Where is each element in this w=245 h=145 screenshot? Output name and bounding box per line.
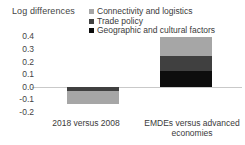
bar-segment[interactable] [160,56,212,71]
bar-group[interactable] [67,30,119,112]
y-axis-title: Log differences [12,6,75,16]
plot-area: 0.40.30.20.10.0-0.1-0.2 [38,30,238,112]
stacked-bar-chart: Log differences Connectivity and logisti… [0,0,245,145]
y-tick-label: 0.0 [22,82,34,92]
legend-swatch-connectivity-icon [89,9,94,14]
x-axis-label-0: 2018 versus 2008 [36,118,136,128]
y-tick-label: 0.1 [22,69,34,79]
bar-segment[interactable] [67,91,119,104]
bar-segment[interactable] [160,37,212,56]
y-tick-label: -0.1 [19,94,34,104]
y-tick-label: 0.4 [22,31,34,41]
x-axis-label-1: EMDEs versus advanced economies [140,118,244,138]
y-tick-label: 0.3 [22,44,34,54]
bar-segment[interactable] [160,71,212,87]
bar-group[interactable] [160,30,212,112]
legend-swatch-trade-policy-icon [89,19,94,24]
x-axis-labels: 2018 versus 2008 EMDEs versus advanced e… [0,116,245,145]
y-tick-label: 0.2 [22,57,34,67]
